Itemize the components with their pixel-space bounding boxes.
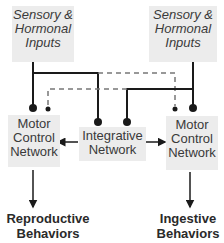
left-input-line-3: Inputs xyxy=(12,36,74,50)
left-motor-line-2: Control xyxy=(8,131,60,145)
ingestive-line-2: Behaviors xyxy=(152,226,224,241)
integrative-box: Integrative Network xyxy=(79,127,146,161)
right-input-line-3: Inputs xyxy=(149,36,217,50)
synapse-dot-small xyxy=(173,107,178,112)
left-input-box: Sensory & Hormonal Inputs xyxy=(12,6,74,62)
synapse-dot xyxy=(29,104,37,112)
synapse-dot xyxy=(189,104,197,112)
left-input-to-integrative xyxy=(33,73,98,120)
synapse-dot-small xyxy=(46,107,51,112)
left-motor-box: Motor Control Network xyxy=(8,115,60,167)
left-input-line-2: Hormonal xyxy=(12,22,74,36)
left-motor-line-1: Motor xyxy=(8,117,60,131)
right-input-to-left-motor-dashed xyxy=(48,89,127,106)
left-input-line-1: Sensory & xyxy=(12,8,74,22)
integrative-line-1: Integrative xyxy=(79,129,146,143)
right-motor-line-2: Control xyxy=(166,132,218,146)
left-motor-line-3: Network xyxy=(8,145,60,159)
right-motor-box: Motor Control Network xyxy=(166,116,218,170)
ingestive-line-1: Ingestive xyxy=(152,211,224,226)
reproductive-behaviors-label: Reproductive Behaviors xyxy=(0,211,96,241)
right-motor-line-1: Motor xyxy=(166,118,218,132)
right-input-line-2: Hormonal xyxy=(149,22,217,36)
reproductive-line-2: Behaviors xyxy=(0,226,96,241)
right-motor-line-3: Network xyxy=(166,146,218,160)
synapse-dot xyxy=(123,118,131,126)
synapse-dot xyxy=(94,118,102,126)
ingestive-behaviors-label: Ingestive Behaviors xyxy=(152,211,224,241)
right-input-box: Sensory & Hormonal Inputs xyxy=(149,6,217,62)
integrative-line-2: Network xyxy=(79,143,146,157)
reproductive-line-1: Reproductive xyxy=(0,211,96,226)
right-input-line-1: Sensory & xyxy=(149,8,217,22)
